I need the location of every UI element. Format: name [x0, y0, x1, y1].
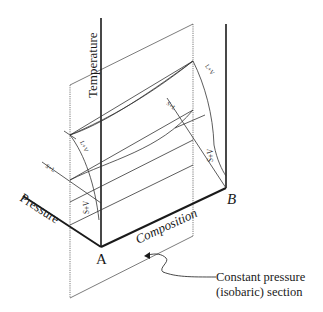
- region-right-sv: S+V: [207, 148, 215, 162]
- pressure-label: Pressure: [17, 190, 62, 227]
- region-right-sl: S+L: [165, 100, 177, 111]
- isotherm-1: [70, 110, 193, 180]
- region-left-lv: L+V: [79, 140, 90, 153]
- phase-diagram-canvas: Temperature Pressure Composition A B L+V…: [0, 0, 323, 312]
- callout-arrow: [144, 252, 216, 277]
- callout-line-1: Constant pressure: [216, 270, 306, 284]
- region-left-sv: S+V: [83, 200, 91, 214]
- point-a-label: A: [96, 251, 107, 267]
- callout-line-2: (isobaric) section: [216, 285, 303, 299]
- composition-label: Composition: [133, 205, 200, 247]
- right-sl-line: [167, 98, 226, 188]
- plane-bottom-edge: [70, 236, 193, 298]
- point-b-label: B: [227, 191, 236, 207]
- region-right-lv: L+V: [204, 63, 216, 76]
- phase-diagram-svg: Temperature Pressure Composition A B L+V…: [0, 0, 323, 312]
- composition-axis: [101, 188, 226, 247]
- region-left-sl: S+L: [44, 163, 56, 174]
- arrow-head-icon: [144, 252, 150, 259]
- temperature-label: Temperature: [85, 32, 100, 98]
- callout-curve: [148, 254, 216, 277]
